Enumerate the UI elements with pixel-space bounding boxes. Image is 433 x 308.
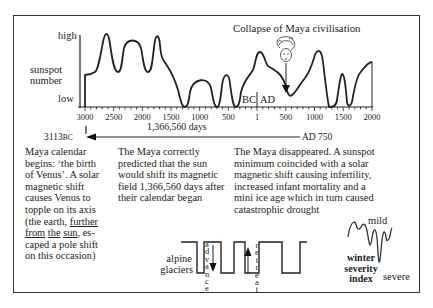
winter-severe-label: severe <box>383 271 410 283</box>
y-axis-label-line1: sunspot <box>30 64 62 76</box>
caption-prediction-line: predicted that the sun <box>118 158 243 170</box>
winter-severity-index-label: winter severity index <box>339 253 383 285</box>
caption-prediction: The Maya correctly predicted that the su… <box>118 146 243 204</box>
caption-prediction-line: The Maya correctly <box>118 146 243 158</box>
caption-prediction-line: field 1,366,560 days after <box>118 181 243 193</box>
caption-underlined: from <box>25 227 45 238</box>
span-days-label: 1,366,560 days <box>147 121 207 133</box>
sunspot-curve <box>85 34 372 107</box>
x-tick-label: 500 <box>213 112 243 124</box>
caption-disappearance-line: The Maya disappeared. A sunspot <box>234 146 419 158</box>
caption-calendar-line: on this occasion) <box>25 250 135 262</box>
caption-calendar-line: caped a pole shift <box>25 239 135 251</box>
caption-prediction-line: their calendar began <box>118 192 243 204</box>
collapse-annotation: Collapse of Maya civilisation <box>233 23 360 35</box>
vertical-letter: e <box>203 285 211 292</box>
caption-underlined: further <box>70 216 98 227</box>
caption-prediction-line: would shift its magnetic <box>118 169 243 181</box>
winter-mild-label: mild <box>368 215 387 227</box>
span-start-label: 3113BC <box>44 132 73 144</box>
caption-disappearance-line: catastrophic drought <box>234 204 419 216</box>
x-tick-label: 1000 <box>300 112 330 124</box>
caption-disappearance: The Maya disappeared. A sunspot minimum … <box>234 146 419 216</box>
y-axis-label-line2: number <box>30 75 62 87</box>
y-high-label: high <box>58 30 77 42</box>
span-end-label: AD 750 <box>302 132 332 144</box>
winter-label-line: winter <box>339 253 383 264</box>
span-start-era: BC <box>63 133 73 142</box>
caption-calendar-line: (the earth, further <box>25 216 135 228</box>
vertical-letter: t <box>253 286 261 293</box>
advance-label: advance <box>203 241 211 293</box>
x-tick-label: 2500 <box>99 112 129 124</box>
caption-text: , es- <box>78 227 95 238</box>
x-tick-label: 3000 <box>70 112 100 124</box>
glacier-wave <box>181 242 307 273</box>
bc-label: BC <box>242 94 256 106</box>
x-tick-label: 2000 <box>357 112 387 124</box>
caption-disappearance-line: magnetic shift causing infertility, <box>234 169 419 181</box>
caption-underlined: sun <box>63 227 77 238</box>
x-tick-label: 1 <box>242 112 272 124</box>
x-tick-label: 500 <box>271 112 301 124</box>
winter-label-line: index <box>339 274 383 285</box>
caption-calendar-line: from the sun, es- <box>25 227 135 239</box>
span-arrow-head <box>86 134 96 141</box>
span-start-year: 3113 <box>44 132 63 142</box>
glacier-label-line1: alpine <box>150 253 192 265</box>
caption-disappearance-line: minimum coincided with a solar <box>234 158 419 170</box>
collapse-arrow-head <box>282 85 290 93</box>
caption-underlined: the <box>48 227 61 238</box>
caption-disappearance-line: increased infant mortality and a <box>234 181 419 193</box>
caption-calendar-line: topple on its axis <box>25 204 135 216</box>
caption-text: (the earth, <box>25 216 70 227</box>
glacier-label-line2: glaciers <box>141 264 193 276</box>
x-tick-label: 1500 <box>328 112 358 124</box>
y-low-label: low <box>58 93 74 105</box>
retreat-label: retreat <box>253 242 261 294</box>
maya-head-icon <box>277 37 295 62</box>
caption-disappearance-line: mini ice age which in turn caused <box>234 192 419 204</box>
ad-label: AD <box>260 94 275 106</box>
